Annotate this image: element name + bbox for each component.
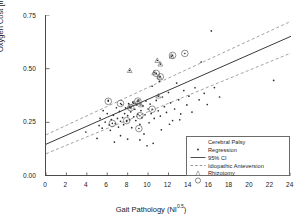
y-tick-label: 0.25 bbox=[10, 118, 36, 125]
x-tick-label: 18 bbox=[221, 181, 237, 188]
dashed-line-icon bbox=[190, 155, 206, 162]
legend-item-cerebral-palsy: Cerebral Palsy bbox=[190, 139, 286, 146]
x-tick-label: 22 bbox=[261, 181, 277, 188]
x-tick-label: 6 bbox=[98, 181, 114, 188]
triangle-marker-icon bbox=[190, 163, 206, 170]
y-tick-label: 0.50 bbox=[10, 65, 36, 72]
y-axis-label: Oxygen Cost [ml / m * kg] bbox=[0, 0, 5, 52]
solid-line-icon bbox=[190, 147, 206, 154]
y-tick-label: 0.00 bbox=[10, 172, 36, 179]
dot-marker-icon bbox=[190, 139, 206, 146]
oxygen-cost-scatter-figure: 0.75 0.50 0.25 0.00 Oxygen Cost [ml / m … bbox=[0, 0, 302, 224]
x-tick-label: 10 bbox=[139, 181, 155, 188]
legend-label: Rhizotomy bbox=[208, 170, 235, 177]
x-tick-label: 8 bbox=[119, 181, 135, 188]
x-tick-label: 24 bbox=[282, 181, 298, 188]
x-axis-label-tail: ) bbox=[184, 205, 187, 214]
y-tick-label: 0.75 bbox=[10, 12, 36, 19]
x-axis-label-exponent: 0.5 bbox=[177, 203, 184, 209]
legend-label: Idiopathic Anteversion bbox=[208, 163, 264, 170]
x-tick-label: 12 bbox=[159, 181, 175, 188]
legend-item-idiopathic-anteversion: Idiopathic Anteversion bbox=[190, 162, 286, 169]
legend-item-rhizotomy: Rhizotomy bbox=[190, 170, 286, 177]
x-tick-label: 4 bbox=[78, 181, 94, 188]
legend-label: Cerebral Palsy bbox=[208, 139, 245, 146]
x-axis-label-base: Gait Pathology (NI bbox=[116, 205, 177, 214]
x-tick-label: 2 bbox=[57, 181, 73, 188]
legend-item-regression: Regression bbox=[190, 147, 286, 154]
legend-item-ci: 95% CI bbox=[190, 155, 286, 162]
circle-marker-icon bbox=[190, 170, 206, 177]
x-axis-label: Gait Pathology (NI0.5) bbox=[0, 203, 302, 214]
x-tick-label: 20 bbox=[241, 181, 257, 188]
legend-label: Regression bbox=[208, 147, 237, 154]
legend-label: 95% CI bbox=[208, 155, 227, 162]
x-tick-label: 0 bbox=[37, 181, 53, 188]
legend: Cerebral Palsy Regression 95% CI Idiopat… bbox=[186, 136, 290, 176]
